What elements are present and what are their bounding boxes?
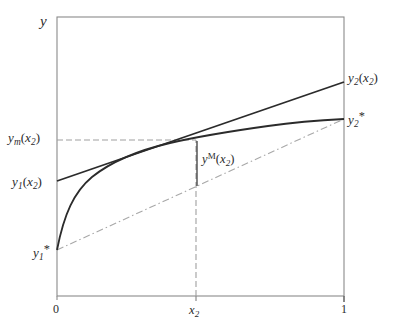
plot-frame — [57, 17, 344, 296]
plot-canvas — [0, 0, 396, 333]
label-y2-x2: y2(x2) — [348, 71, 378, 87]
chord-y1star-y2star — [57, 119, 344, 250]
label-yM-x2: yM(x2) — [202, 152, 234, 168]
frame-rect — [57, 17, 344, 296]
label-y2-star: y2* — [348, 110, 365, 130]
label-y1-x2: y1(x2) — [12, 175, 42, 191]
tick-label-1: 1 — [341, 303, 347, 315]
tick-label-x2: x2 — [189, 304, 199, 319]
label-ym-x2: ym(x2) — [8, 131, 40, 147]
label-y1-star: y1* — [33, 243, 50, 263]
line-y2-x2 — [57, 82, 344, 181]
y-axis-label: y — [40, 14, 47, 29]
figure-container: y ym(x2) y1(x2) y1* y2(x2) y2* yM(x2) 0 … — [0, 0, 396, 333]
tick-label-0: 0 — [53, 303, 59, 315]
